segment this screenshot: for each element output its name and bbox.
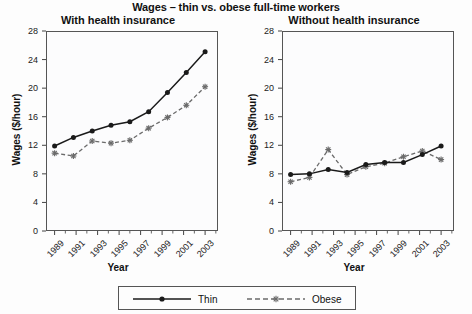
y-tick-label: 12 <box>12 140 38 150</box>
legend: Thin Obese <box>118 286 356 310</box>
legend-label-thin: Thin <box>198 294 217 305</box>
chart-figure: Wages – thin vs. obese full-time workers… <box>0 0 472 314</box>
y-tick-label: 20 <box>12 83 38 93</box>
y-tick-label: 16 <box>248 112 274 122</box>
x-axis-title-with: Year <box>0 262 236 273</box>
legend-entry-obese: Obese <box>245 287 341 311</box>
y-tick-label: 0 <box>248 226 274 236</box>
panel-with-health-insurance: With health insurance Year Wages ($/hour… <box>0 14 236 282</box>
chart-title: Wages – thin vs. obese full-time workers <box>0 1 472 13</box>
legend-swatch-thin-icon <box>131 293 193 305</box>
y-axis-title-without: Wages ($/hour) <box>247 80 258 180</box>
y-tick-label: 28 <box>248 26 274 36</box>
y-tick-label: 28 <box>12 26 38 36</box>
y-tick-label: 8 <box>12 169 38 179</box>
y-tick-label: 0 <box>12 226 38 236</box>
y-tick-label: 20 <box>248 83 274 93</box>
legend-swatch-obese-icon <box>245 293 307 305</box>
y-tick-label: 16 <box>12 112 38 122</box>
legend-entry-thin: Thin <box>131 287 217 311</box>
y-tick-label: 8 <box>248 169 274 179</box>
y-tick-label: 24 <box>12 55 38 65</box>
y-axis-title-with: Wages ($/hour) <box>11 80 22 180</box>
y-tick-label: 4 <box>12 197 38 207</box>
panel-without-health-insurance: Without health insurance Year Wages ($/h… <box>236 14 472 282</box>
x-axis-title-without: Year <box>236 262 472 273</box>
y-tick-label: 4 <box>248 197 274 207</box>
y-tick-label: 12 <box>248 140 274 150</box>
legend-label-obese: Obese <box>312 294 341 305</box>
y-tick-label: 24 <box>248 55 274 65</box>
